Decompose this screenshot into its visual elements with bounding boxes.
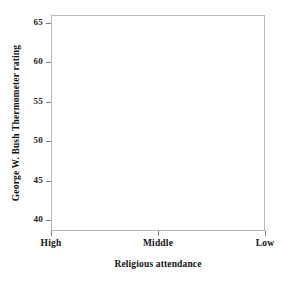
x-axis: High Middle Low Religious attendance — [0, 231, 283, 281]
x-axis-title: Religious attendance — [51, 258, 265, 271]
y-tick-label: 45 — [34, 174, 43, 187]
plot-data-area — [52, 16, 264, 230]
x-tick-label: Low — [225, 237, 283, 250]
plot-frame — [51, 15, 265, 231]
y-tick-mark — [46, 23, 51, 24]
y-tick-label: 50 — [34, 134, 43, 147]
y-tick-mark — [46, 62, 51, 63]
y-tick-label: 55 — [34, 95, 43, 108]
y-tick-mark — [46, 220, 51, 221]
chart-figure: 65 60 55 50 45 40 George W. Bush Thermom… — [0, 0, 283, 281]
y-tick-label: 60 — [34, 55, 43, 68]
x-tick-mark — [265, 231, 266, 236]
x-tick-mark — [158, 231, 159, 236]
y-tick-mark — [46, 141, 51, 142]
y-tick-label: 65 — [34, 16, 43, 29]
y-tick-mark — [46, 102, 51, 103]
x-tick-label: High — [11, 237, 91, 250]
y-axis-title: George W. Bush Thermometer rating — [9, 15, 24, 231]
y-tick-label: 40 — [34, 213, 43, 226]
y-tick-mark — [46, 181, 51, 182]
x-tick-label: Middle — [118, 237, 198, 250]
x-tick-mark — [51, 231, 52, 236]
